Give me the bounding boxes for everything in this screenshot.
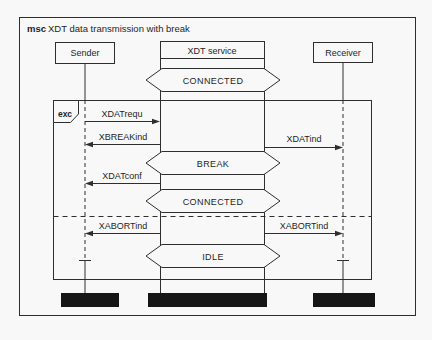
msc-diagram-canvas: msc XDT data transmission with break exc… — [0, 0, 432, 340]
message-arrowhead-xdatrequ — [152, 119, 160, 125]
message-label-xdatconf: XDATconf — [102, 171, 142, 181]
message-label-xabortind-right: XABORTind — [280, 221, 329, 231]
message-label-xbreakind: XBREAKind — [99, 132, 148, 142]
instance-end-bar-xdt-service — [148, 293, 267, 307]
exc-operator-label: exc — [58, 109, 72, 119]
state-label-connected-1: CONNECTED — [183, 76, 244, 86]
state-label-break: BREAK — [197, 159, 230, 169]
instance-end-bar-receiver — [313, 293, 375, 307]
instance-name-xdt-service: XDT service — [188, 46, 237, 56]
msc-diagram: msc XDT data transmission with break exc… — [0, 0, 432, 340]
message-label-xdatind: XDATind — [286, 134, 321, 144]
state-label-connected-2: CONNECTED — [183, 197, 244, 207]
message-arrowhead-xdatind — [335, 145, 343, 151]
instance-end-bar-sender — [61, 293, 119, 307]
message-arrowhead-xabortind-right — [335, 231, 343, 237]
message-arrowhead-xdatconf — [85, 181, 93, 187]
msc-keyword: msc — [27, 23, 46, 34]
state-label-idle: IDLE — [202, 252, 224, 262]
instance-name-sender: Sender — [70, 48, 99, 58]
message-arrowhead-xabortind-left — [85, 231, 93, 237]
message-label-xabortind-left: XABORTind — [99, 221, 148, 231]
message-label-xdatrequ: XDATrequ — [101, 109, 142, 119]
instance-name-receiver: Receiver — [325, 48, 361, 58]
message-arrowhead-xbreakind — [85, 142, 93, 148]
diagram-title: XDT data transmission with break — [48, 23, 190, 34]
